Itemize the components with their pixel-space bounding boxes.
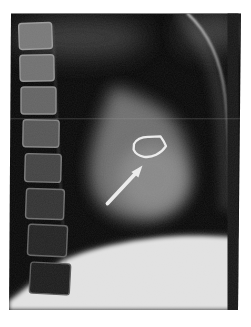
film-grain bbox=[9, 13, 242, 311]
figure-page bbox=[0, 0, 251, 327]
radiograph-image bbox=[0, 0, 251, 327]
